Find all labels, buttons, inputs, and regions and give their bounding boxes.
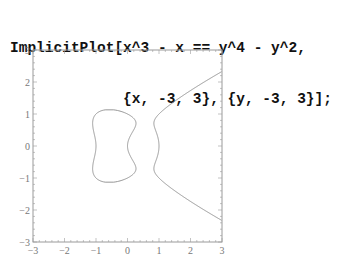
plot-curves bbox=[93, 72, 222, 220]
curve-closed-oval bbox=[93, 110, 136, 182]
y-tick-label: 3 bbox=[25, 45, 30, 56]
x-tick-label: 2 bbox=[188, 245, 193, 256]
curve-open-branch bbox=[154, 72, 222, 220]
y-tick-label: −3 bbox=[19, 237, 30, 248]
y-tick-label: 1 bbox=[25, 109, 30, 120]
x-tick-label: 0 bbox=[125, 245, 130, 256]
axis-ticks: −3−2−101233210−1−2−3 bbox=[19, 45, 224, 257]
x-tick-label: 1 bbox=[157, 245, 162, 256]
x-tick-label: −2 bbox=[59, 245, 70, 256]
y-tick-label: −2 bbox=[19, 205, 30, 216]
x-tick-label: 3 bbox=[220, 245, 225, 256]
implicit-plot: −3−2−101233210−1−2−3 bbox=[0, 0, 344, 265]
x-tick-label: −1 bbox=[91, 245, 102, 256]
y-tick-label: 2 bbox=[25, 77, 30, 88]
y-tick-label: 0 bbox=[25, 141, 30, 152]
y-tick-label: −1 bbox=[19, 173, 30, 184]
